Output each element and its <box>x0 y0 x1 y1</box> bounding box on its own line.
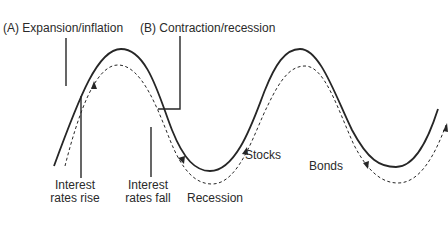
rates-fall-label: Interest rates fall <box>118 179 178 205</box>
rates-rise-label: Interest rates rise <box>45 179 105 205</box>
arrow-icon <box>91 81 97 89</box>
arrow-icon <box>178 156 185 164</box>
phase-a-label: (A) Expansion/inflation <box>3 22 123 35</box>
arrow-icon <box>443 123 448 132</box>
bonds-label: Bonds <box>309 160 343 173</box>
phase-b-pointer <box>158 36 180 109</box>
recession-label: Recession <box>187 192 243 205</box>
phase-b-label: (B) Contraction/recession <box>140 22 275 35</box>
stocks-label: Stocks <box>245 149 281 162</box>
rates-fall-line2: rates fall <box>118 192 178 205</box>
rates-rise-line2: rates rise <box>45 192 105 205</box>
